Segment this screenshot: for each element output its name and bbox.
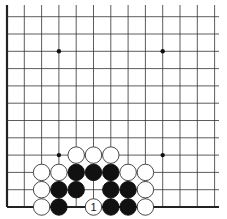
black-stone-icon: [85, 164, 102, 181]
black-stone-icon: [103, 199, 120, 216]
white-stone-icon: [137, 164, 154, 181]
white-stone[interactable]: [137, 164, 154, 181]
white-stone-icon: [103, 147, 120, 164]
black-stone[interactable]: [51, 199, 68, 216]
white-stone-icon: [33, 164, 50, 181]
black-stone[interactable]: [120, 181, 137, 198]
black-stone-icon: [68, 164, 85, 181]
black-stone-icon: [103, 181, 120, 198]
white-stone-icon: [137, 199, 154, 216]
move-number-label: 1: [90, 201, 96, 213]
black-stone[interactable]: [120, 199, 137, 216]
star-point-icon: [161, 153, 165, 157]
white-stone[interactable]: [85, 147, 102, 164]
black-stone-icon: [120, 181, 137, 198]
white-stone[interactable]: [137, 181, 154, 198]
black-stone-icon: [51, 181, 68, 198]
white-stone[interactable]: [103, 147, 120, 164]
white-stone-icon: [120, 164, 137, 181]
go-board[interactable]: 1: [0, 0, 227, 219]
star-point-icon: [57, 49, 61, 53]
white-stone-icon: [33, 199, 50, 216]
white-stone[interactable]: [33, 181, 50, 198]
star-point-icon: [161, 49, 165, 53]
black-stone-icon: [103, 164, 120, 181]
black-stone[interactable]: [103, 164, 120, 181]
black-stone[interactable]: [103, 199, 120, 216]
white-stone[interactable]: [68, 147, 85, 164]
black-stone-icon: [120, 199, 137, 216]
black-stone[interactable]: [51, 181, 68, 198]
white-stone[interactable]: 1: [85, 199, 102, 216]
black-stone-icon: [68, 181, 85, 198]
white-stone-icon: [85, 147, 102, 164]
white-stone[interactable]: [51, 164, 68, 181]
black-stone-icon: [51, 199, 68, 216]
star-point-icon: [57, 153, 61, 157]
black-stone[interactable]: [68, 164, 85, 181]
black-stone[interactable]: [68, 181, 85, 198]
white-stone-icon: [51, 164, 68, 181]
white-stone[interactable]: [33, 199, 50, 216]
white-stone-icon: [68, 147, 85, 164]
black-stone[interactable]: [85, 164, 102, 181]
black-stone[interactable]: [103, 181, 120, 198]
white-stone[interactable]: [137, 199, 154, 216]
white-stone[interactable]: [33, 164, 50, 181]
go-board-canvas[interactable]: 1: [0, 0, 227, 219]
white-stone-icon: [137, 181, 154, 198]
white-stone[interactable]: [120, 164, 137, 181]
white-stone-icon: [33, 181, 50, 198]
stones-layer[interactable]: 1: [33, 147, 153, 215]
